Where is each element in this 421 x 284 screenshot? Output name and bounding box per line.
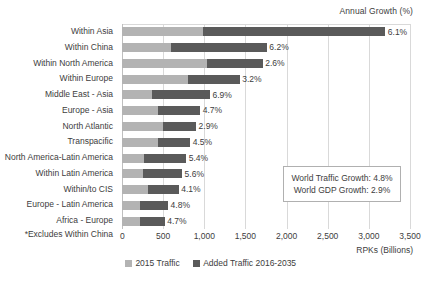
- bar-segment-added-traffic: [163, 122, 196, 131]
- legend-item[interactable]: 2015 Traffic: [125, 258, 180, 268]
- chart-footnote: *Excludes Within China: [0, 229, 118, 239]
- bar-segment-added-traffic: [140, 217, 165, 226]
- legend-label: 2015 Traffic: [135, 258, 179, 268]
- chart-title: Annual Growth (%): [339, 6, 413, 16]
- bar-value-label: 5.6%: [185, 170, 204, 179]
- bar-segment-2015-traffic: [122, 27, 203, 36]
- bar-value-label: 3.2%: [242, 75, 261, 84]
- legend-label: Added Traffic 2016-2035: [203, 258, 296, 268]
- bar-segment-added-traffic: [171, 43, 267, 52]
- bar-row[interactable]: 4.7%: [122, 213, 410, 229]
- bar-value-label: 2.9%: [199, 122, 218, 131]
- x-tick-label: 3,000: [358, 231, 379, 241]
- category-label: Within/to CIS: [63, 182, 113, 198]
- bar-segment-2015-traffic: [122, 43, 171, 52]
- bar-segment-2015-traffic: [122, 59, 207, 68]
- bar-value-label: 6.2%: [269, 43, 288, 52]
- bar-segment-added-traffic: [188, 75, 240, 84]
- category-axis-labels: Within AsiaWithin ChinaWithin North Amer…: [0, 24, 118, 229]
- category-label: Europe - Latin America: [27, 197, 113, 213]
- bar-value-label: 4.1%: [181, 185, 200, 194]
- bar-row[interactable]: 6.1%: [122, 24, 410, 40]
- growth-annotation-box: World Traffic Growth: 4.8% World GDP Gro…: [283, 166, 401, 202]
- gridline-3500: [410, 24, 411, 229]
- category-label: North Atlantic: [62, 119, 113, 135]
- bar-segment-added-traffic: [148, 185, 178, 194]
- bar-segment-added-traffic: [158, 138, 190, 147]
- bar-segment-2015-traffic: [122, 106, 158, 115]
- x-axis-title: RPKs (Billions): [356, 245, 413, 255]
- bar-segment-2015-traffic: [122, 154, 144, 163]
- bar-row[interactable]: 4.7%: [122, 103, 410, 119]
- category-label: North America-Latin America: [5, 150, 113, 166]
- legend-item[interactable]: Added Traffic 2016-2035: [193, 258, 296, 268]
- legend-swatch-icon: [193, 260, 200, 267]
- bar-value-label: 4.5%: [193, 138, 212, 147]
- bar-row[interactable]: 3.2%: [122, 71, 410, 87]
- bar-row[interactable]: 2.6%: [122, 56, 410, 72]
- bar-segment-added-traffic: [203, 27, 385, 36]
- category-label: Middle East - Asia: [45, 87, 113, 103]
- category-label: Africa - Europe: [56, 213, 113, 229]
- bar-segment-2015-traffic: [122, 122, 163, 131]
- chart-legend: 2015 TrafficAdded Traffic 2016-2035: [0, 258, 421, 268]
- bar-segment-added-traffic: [152, 90, 210, 99]
- x-tick-label: 1,500: [235, 231, 256, 241]
- bar-row[interactable]: 6.2%: [122, 40, 410, 56]
- bar-segment-added-traffic: [144, 154, 186, 163]
- bar-segment-added-traffic: [158, 106, 200, 115]
- bar-segment-added-traffic: [143, 169, 182, 178]
- x-tick-label: 0: [120, 231, 125, 241]
- annotation-world-traffic-growth: World Traffic Growth: 4.8%: [288, 172, 396, 184]
- x-tick-label: 3,500: [399, 231, 420, 241]
- legend-swatch-icon: [125, 260, 132, 267]
- category-label: Transpacific: [67, 134, 113, 150]
- bar-value-label: 4.7%: [203, 106, 222, 115]
- bar-value-label: 6.1%: [388, 28, 407, 37]
- x-tick-label: 1,000: [194, 231, 215, 241]
- bar-segment-2015-traffic: [122, 138, 158, 147]
- bar-row[interactable]: 6.9%: [122, 87, 410, 103]
- category-label: Within China: [65, 40, 113, 56]
- bar-row[interactable]: 5.4%: [122, 150, 410, 166]
- bar-segment-2015-traffic: [122, 75, 188, 84]
- bar-segment-2015-traffic: [122, 217, 140, 226]
- category-label: Within North America: [33, 56, 113, 72]
- category-label: Within Latin America: [36, 166, 113, 182]
- category-label: Europe - Asia: [62, 103, 113, 119]
- annotation-world-gdp-growth: World GDP Growth: 2.9%: [288, 184, 396, 196]
- x-axis-ticks: 05001,0001,5002,0002,5003,0003,500: [122, 231, 410, 245]
- bar-segment-2015-traffic: [122, 185, 148, 194]
- bar-value-label: 4.8%: [171, 201, 190, 210]
- category-label: Within Europe: [60, 71, 113, 87]
- bar-row[interactable]: 2.9%: [122, 119, 410, 135]
- bar-segment-added-traffic: [207, 59, 263, 68]
- bar-row[interactable]: 4.5%: [122, 134, 410, 150]
- x-tick-label: 2,500: [317, 231, 338, 241]
- bar-value-label: 5.4%: [189, 154, 208, 163]
- x-tick-label: 2,000: [276, 231, 297, 241]
- bar-segment-2015-traffic: [122, 201, 140, 210]
- bar-segment-2015-traffic: [122, 90, 152, 99]
- bar-value-label: 4.7%: [167, 217, 186, 226]
- traffic-growth-chart: Annual Growth (%) Within AsiaWithin Chin…: [0, 0, 421, 284]
- bar-value-label: 6.9%: [213, 91, 232, 100]
- bar-segment-2015-traffic: [122, 169, 143, 178]
- x-tick-label: 500: [156, 231, 170, 241]
- category-label: Within Asia: [71, 24, 113, 40]
- bar-value-label: 2.6%: [265, 59, 284, 68]
- bar-segment-added-traffic: [140, 201, 168, 210]
